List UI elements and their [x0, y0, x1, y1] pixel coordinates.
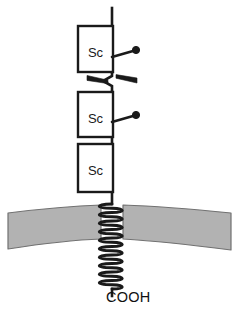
- sc-domain-box-3-label: Sc: [88, 163, 104, 178]
- sc-domain-box-1-label: Sc: [88, 45, 104, 60]
- c-terminus-label: COOH: [106, 289, 150, 305]
- transmembrane-helix: [99, 204, 122, 289]
- sc-domain-box-1: Sc: [78, 26, 113, 72]
- sc-domain-box-2: Sc: [78, 92, 113, 137]
- diagram-canvas: Sc Sc Sc COOH: [0, 0, 238, 329]
- sc-domain-box-2-label: Sc: [88, 111, 104, 126]
- sc-domain-box-3: Sc: [78, 144, 113, 192]
- membrane-protein-diagram: Sc Sc Sc COOH: [0, 0, 238, 329]
- glycosylation-dot-lower-icon: [132, 111, 139, 118]
- glycosylation-dot-upper-icon: [132, 46, 139, 53]
